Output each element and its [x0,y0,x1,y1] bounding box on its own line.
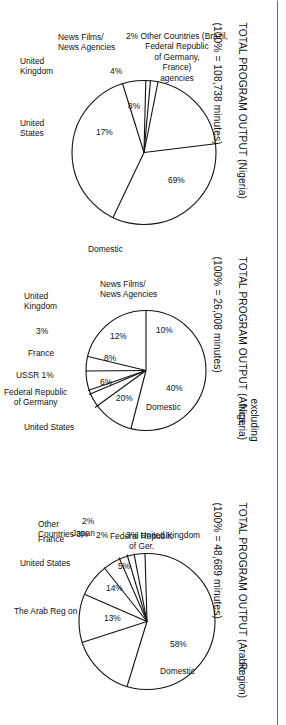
chart-nigeria-label-other-countries: 2% Other Countries (Brazil, Federal Repu… [126,30,228,82]
pie-africa-pct-us: 20% [116,392,133,402]
pie-arabic-pct-arab: 13% [104,612,121,622]
pie-arabic-pct-domestic: 58% [170,638,187,648]
chart-arabic-label-uk: 3% United Kingdom [126,530,200,540]
chart-arabic-pct-japan: 2% [82,516,94,526]
chart-arabic-label-arab-region: The Arab Reg on [14,606,77,616]
pie-africa-pct-domestic: 40% [166,382,183,392]
chart-arabic-label-japan: Japan [72,528,95,538]
chart-nigeria-pie: 69% 17% 8% [64,72,224,232]
chart-africa-label-frg: Federal Republic of Germany [4,386,67,406]
chart-nigeria-label-united-states: United States [20,118,44,137]
chart-africa-label-news-films: News Films/ News Agencies [100,278,157,298]
chart-arabic-label-domestic: Domestic [160,666,195,676]
chart-nigeria: TOTAL PROGRAM OUTPUT (Nigeria) (100% = 1… [0,0,286,240]
pie-africa-pct-news: 10% [156,324,173,334]
pie-africa-pct-uk: 12% [110,330,127,340]
chart-nigeria-title-main: TOTAL PROGRAM OUTPUT (Nigeria) [235,22,247,232]
pie-arabic-svg: 58% 13% 14% 5% [72,546,222,696]
chart-africa-label-france: France [28,348,54,358]
chart-arabic-title-main2: Region) [236,662,248,698]
chart-arabic: TOTAL PROGRAM OUTPUT (Arabic (100% = 48,… [0,486,286,725]
pie-nigeria-pct-us: 17% [96,126,113,136]
chart-arabic-label-united-states: United States [20,558,70,568]
chart-africa-label-uk: United Kingdom [24,290,57,310]
pie-arabic-pct-france: 5% [118,560,131,570]
chart-nigeria-label-united-kingdom: United Kingdom [20,56,53,75]
pie-slice-lines [86,311,146,429]
chart-africa-pie: 40% 20% 6% 8% 12% 10% [80,304,212,436]
chart-africa-label-united-states: United States [24,422,74,432]
chart-africa-label-ussr: USSR 1% [16,370,54,380]
pie-africa-svg: 40% 20% 6% 8% 12% 10% [80,304,212,436]
chart-nigeria-pct-news-films: 4% [110,66,122,76]
chart-africa: TOTAL PROGRAM OUTPUT (Africa, (100% = 26… [0,238,286,486]
scanned-page: TOTAL PROGRAM OUTPUT (Nigeria) (100% = 1… [0,0,286,725]
chart-africa-title-main: TOTAL PROGRAM OUTPUT (Africa, [235,256,247,478]
chart-africa-label-domestic: Domestic [146,402,181,412]
chart-arabic-pct-frg: 2% [96,530,108,540]
chart-africa-title-sub: (100% = 26,008 minutes) [210,256,222,478]
chart-africa-title-main2: excluding [248,398,260,441]
chart-nigeria-label-news-films: News Films/ News Agencies [58,32,115,51]
pie-nigeria-pct-domestic: 69% [168,174,185,184]
pie-africa-pct-frg: 6% [100,376,113,386]
pie-arabic-pct-us: 14% [106,582,123,592]
pie-nigeria-pct-uk: 8% [128,100,141,110]
chart-africa-pct-uk-small: 3% [36,326,48,336]
pie-nigeria-svg: 69% 17% 8% [64,72,224,232]
chart-arabic-pie: 58% 13% 14% 5% [72,546,222,696]
pie-africa-pct-france: 8% [104,352,117,362]
chart-africa-title-main3: Nigeria) [236,404,248,440]
